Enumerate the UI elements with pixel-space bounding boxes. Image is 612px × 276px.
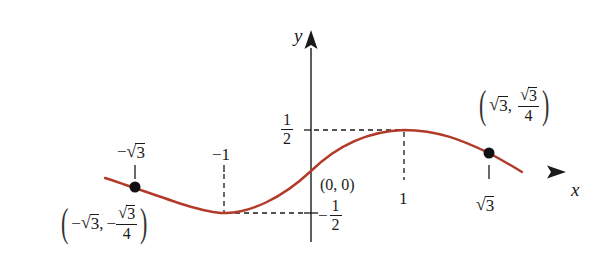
radicand: 3 xyxy=(485,196,495,215)
y-axis-arrow-icon xyxy=(305,30,318,49)
point-sqrt3 xyxy=(484,148,495,159)
sqrt-expression: √3 xyxy=(81,214,99,233)
tick-label-neg-half: −12 xyxy=(318,198,342,233)
comma: , xyxy=(508,97,512,114)
point-label-neg-sqrt3: ( −√3, − √34 ) xyxy=(58,205,151,242)
tick-label-neg-sqrt3: −√3 xyxy=(117,143,145,162)
tick-label-sqrt3: √3 xyxy=(476,196,494,215)
sqrt-expression: √3 xyxy=(520,87,537,105)
tick-label-half: 12 xyxy=(281,112,293,147)
fraction: √34 xyxy=(518,87,539,124)
origin-label: (0, 0) xyxy=(320,177,355,193)
denominator: 4 xyxy=(524,107,532,124)
numerator: √3 xyxy=(116,205,137,225)
denominator: 2 xyxy=(332,216,340,233)
right-paren: ) xyxy=(140,205,147,241)
denominator: 2 xyxy=(283,130,291,147)
radicand: 3 xyxy=(90,214,100,233)
sqrt-expression: √3 xyxy=(127,143,145,162)
minus-sign: − xyxy=(117,142,127,161)
radicand: 3 xyxy=(135,143,145,162)
minus-sign: − xyxy=(71,215,81,232)
numerator: 1 xyxy=(281,112,293,130)
fraction: 12 xyxy=(330,198,342,233)
sqrt-expression: √3 xyxy=(476,196,494,215)
left-paren: ( xyxy=(479,87,486,123)
denominator: 4 xyxy=(123,225,131,242)
sqrt-expression: √3 xyxy=(118,205,135,223)
tick-label-neg-1: −1 xyxy=(212,146,230,163)
point-neg-sqrt3 xyxy=(130,182,141,193)
left-paren: ( xyxy=(61,205,68,241)
tick-label-1: 1 xyxy=(399,190,408,207)
radicand: 3 xyxy=(498,96,508,115)
minus-sign: − xyxy=(318,207,328,224)
fraction: 12 xyxy=(281,112,293,147)
x-axis-label: x xyxy=(571,180,579,199)
right-paren: ) xyxy=(542,87,549,123)
comma: , xyxy=(99,215,103,232)
sqrt-expression: √3 xyxy=(489,96,507,115)
point-label-sqrt3: ( √3, √34 ) xyxy=(476,87,552,124)
radicand: 3 xyxy=(528,87,537,105)
numerator: √3 xyxy=(518,87,539,107)
y-axis-label: y xyxy=(294,26,302,45)
fraction: √34 xyxy=(116,205,137,242)
numerator: 1 xyxy=(330,198,342,216)
radicand: 3 xyxy=(126,205,135,223)
minus-sign: − xyxy=(106,215,116,232)
